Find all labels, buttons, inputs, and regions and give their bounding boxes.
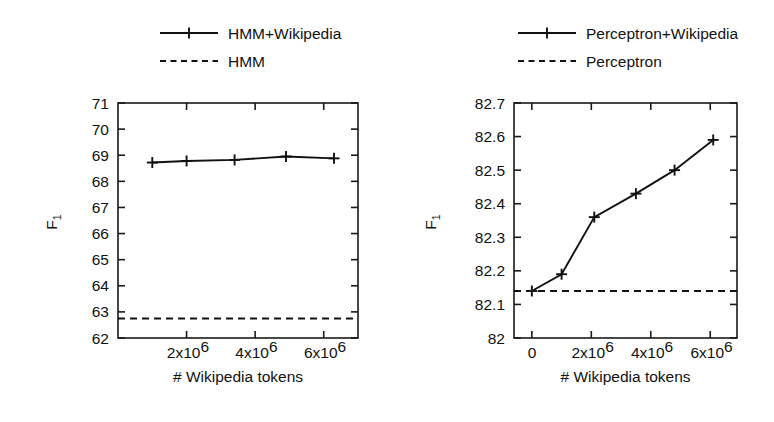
y-tick-label: 82.6	[475, 128, 505, 145]
y-tick-label: 82	[488, 330, 505, 347]
y-tick-label: 82.2	[475, 262, 505, 279]
legend-label-primary: Perceptron+Wikipedia	[586, 25, 738, 42]
y-tick-label: 67	[92, 199, 109, 216]
chart-panel-hmm: 626364656667686970712x1064x1066x106# Wik…	[0, 0, 400, 422]
data-series-line	[152, 157, 334, 163]
y-tick-label: 64	[92, 277, 110, 294]
y-tick-label: 69	[92, 147, 109, 164]
y-tick-label: 65	[92, 251, 109, 268]
y-tick-label: 66	[92, 225, 109, 242]
x-tick-label: 4x106	[631, 338, 673, 361]
figure-root: 626364656667686970712x1064x1066x106# Wik…	[0, 0, 774, 422]
x-tick-label: 4x106	[235, 338, 277, 361]
x-tick-label: 2x106	[572, 338, 614, 361]
x-tick-label: 0	[528, 344, 537, 361]
plot-frame	[118, 103, 358, 338]
perceptron-chart-svg: 8282.182.282.382.482.582.682.702x1064x10…	[400, 0, 774, 422]
y-tick-label: 68	[92, 173, 109, 190]
x-tick-label: 2x106	[167, 338, 209, 361]
hmm-chart-svg: 626364656667686970712x1064x1066x106# Wik…	[0, 0, 400, 422]
x-tick-label: 6x106	[690, 338, 732, 361]
x-tick-label: 6x106	[304, 338, 346, 361]
x-axis-label: # Wikipedia tokens	[560, 368, 690, 385]
y-tick-label: 63	[92, 303, 109, 320]
legend-label-baseline: HMM	[228, 53, 265, 70]
y-tick-label: 62	[92, 330, 109, 347]
y-tick-label: 82.5	[475, 162, 505, 179]
y-tick-label: 82.3	[475, 229, 505, 246]
chart-panel-perceptron: 8282.182.282.382.482.582.682.702x1064x10…	[400, 0, 774, 422]
y-tick-label: 71	[92, 95, 109, 112]
legend-label-primary: HMM+Wikipedia	[228, 25, 342, 42]
y-tick-label: 82.7	[475, 95, 505, 112]
y-axis-label: F1	[422, 214, 442, 229]
y-tick-label: 82.1	[475, 296, 505, 313]
legend-label-baseline: Perceptron	[586, 53, 662, 70]
y-tick-label: 70	[92, 121, 110, 138]
plot-frame	[514, 103, 737, 338]
data-series-line	[532, 140, 713, 291]
y-axis-label: F1	[43, 214, 63, 229]
x-axis-label: # Wikipedia tokens	[173, 368, 303, 385]
y-tick-label: 82.4	[475, 195, 506, 212]
